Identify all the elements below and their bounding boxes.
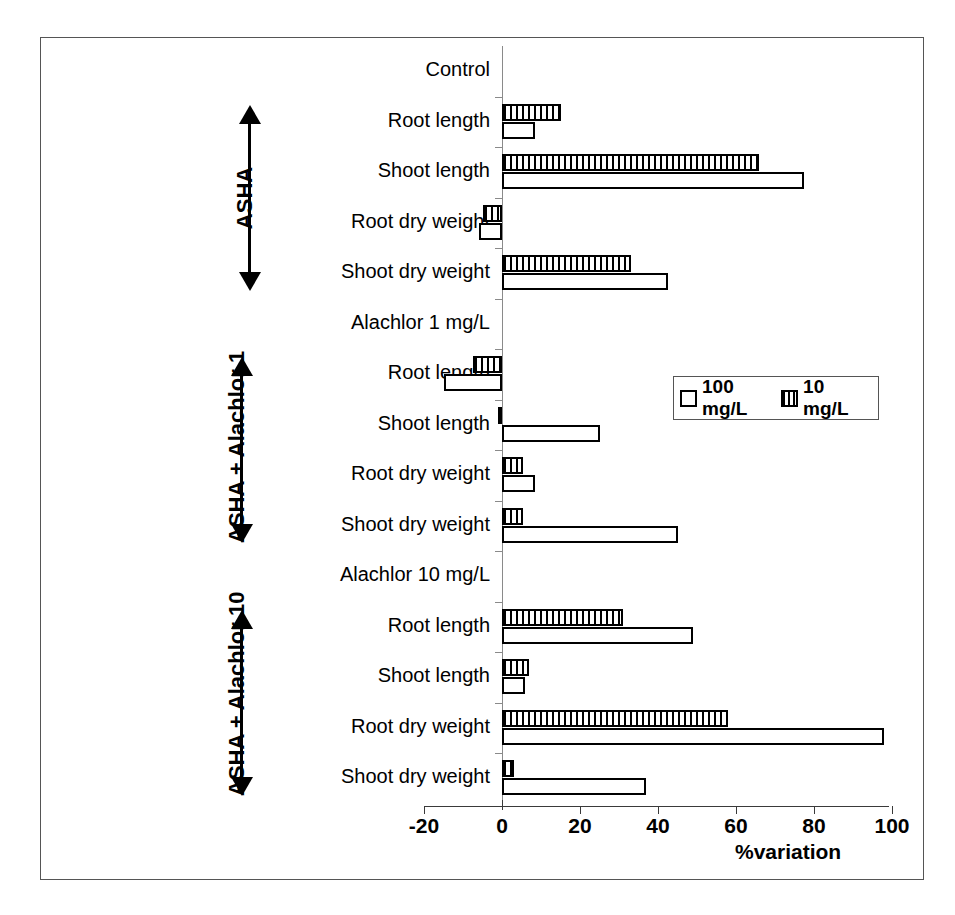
x-axis-tick — [502, 800, 503, 810]
bar-10mgl — [502, 659, 529, 676]
x-axis-tick — [736, 806, 737, 814]
bar-10mgl — [502, 760, 514, 777]
x-axis-tick — [580, 806, 581, 814]
group-label: ASHA + Alachlor 1 — [224, 357, 250, 543]
group-label: ASHA — [232, 105, 258, 291]
bar-100mgl — [502, 778, 646, 795]
category-label: Shoot length — [228, 664, 490, 687]
bar-100mgl — [502, 728, 884, 745]
x-axis-tick — [658, 806, 659, 814]
x-axis-title: %variation — [735, 840, 841, 864]
figure: ControlRoot lengthShoot lengthRoot dry w… — [0, 0, 955, 915]
x-axis-tick-label: 0 — [462, 814, 542, 838]
y-axis-tick — [495, 753, 502, 754]
bar-100mgl — [444, 374, 503, 391]
bar-10mgl — [498, 407, 502, 424]
x-axis-tick-label: 60 — [696, 814, 776, 838]
bar-100mgl — [502, 273, 668, 290]
y-axis-tick — [495, 703, 502, 704]
x-axis-tick — [424, 806, 425, 814]
bar-100mgl — [502, 425, 600, 442]
category-label: Shoot dry weight — [228, 765, 490, 788]
group-label: ASHA + Alachlor 10 — [224, 610, 250, 796]
section-header-label: Alachlor 1 mg/L — [228, 311, 490, 334]
bar-100mgl — [502, 122, 535, 139]
category-label: Root dry weight — [228, 462, 490, 485]
x-axis-tick — [892, 806, 893, 814]
bar-100mgl — [502, 475, 535, 492]
bar-10mgl — [502, 457, 523, 474]
section-header-label: Alachlor 10 mg/L — [228, 563, 490, 586]
bar-100mgl — [502, 172, 804, 189]
bar-100mgl — [502, 526, 678, 543]
bar-10mgl — [502, 104, 561, 121]
category-label: Shoot length — [228, 159, 490, 182]
y-axis-tick — [495, 602, 502, 603]
y-axis-tick — [495, 400, 502, 401]
x-axis-tick-label: 40 — [618, 814, 698, 838]
category-label: Root dry weight — [228, 210, 490, 233]
x-axis-line — [425, 806, 889, 807]
legend-swatch-hatched-icon — [781, 390, 798, 407]
legend: 100 mg/L 10 mg/L — [673, 376, 879, 420]
bar-10mgl — [502, 508, 523, 525]
y-axis-tick — [495, 198, 502, 199]
y-axis-tick — [495, 147, 502, 148]
legend-label-10: 10 mg/L — [803, 376, 872, 420]
bar-10mgl — [502, 710, 728, 727]
category-label: Shoot dry weight — [228, 260, 490, 283]
bar-10mgl — [502, 609, 623, 626]
legend-swatch-open-icon — [680, 390, 697, 407]
legend-label-100: 100 mg/L — [702, 376, 781, 420]
category-label: Root dry weight — [228, 715, 490, 738]
y-axis-tick — [495, 248, 502, 249]
bar-100mgl — [502, 677, 525, 694]
bar-100mgl — [479, 223, 502, 240]
section-header-label: Control — [228, 58, 490, 81]
category-label: Root length — [228, 109, 490, 132]
bar-10mgl — [473, 356, 502, 373]
y-axis-tick — [495, 349, 502, 350]
bar-10mgl — [483, 205, 503, 222]
bar-10mgl — [502, 154, 759, 171]
bar-10mgl — [502, 255, 631, 272]
x-axis-tick-label: 100 — [852, 814, 932, 838]
y-axis-tick — [495, 551, 502, 552]
bar-chart-plot: ControlRoot lengthShoot lengthRoot dry w… — [0, 0, 955, 915]
y-axis-tick — [495, 501, 502, 502]
legend-item-100: 100 mg/L — [680, 376, 781, 420]
x-axis-tick-label: 80 — [774, 814, 854, 838]
category-label: Root length — [228, 614, 490, 637]
category-label: Shoot dry weight — [228, 513, 490, 536]
y-axis-tick — [495, 299, 502, 300]
x-axis-tick-label: 20 — [540, 814, 620, 838]
category-label: Shoot length — [228, 412, 490, 435]
x-axis-tick-label: -20 — [384, 814, 464, 838]
y-axis-tick — [495, 450, 502, 451]
x-axis-tick — [814, 806, 815, 814]
y-axis-tick — [495, 97, 502, 98]
legend-item-10: 10 mg/L — [781, 376, 872, 420]
bar-100mgl — [502, 627, 693, 644]
y-axis-tick — [495, 652, 502, 653]
